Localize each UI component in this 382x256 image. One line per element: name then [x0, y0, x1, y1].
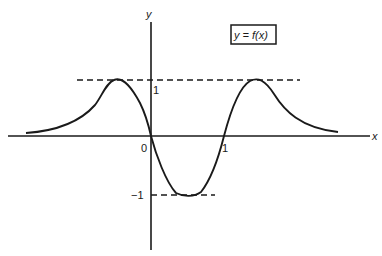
x-axis-label: x [371, 130, 378, 142]
x-tick-1: 1 [222, 142, 228, 154]
function-graph: 1 0 1 −1 y x y = f(x) [0, 0, 382, 256]
legend-label: y = f(x) [233, 29, 268, 41]
y-tick-minus-1: −1 [131, 189, 144, 201]
function-curve [26, 79, 338, 196]
origin-label: 0 [141, 142, 147, 154]
y-axis-label: y [145, 8, 153, 20]
y-tick-1: 1 [153, 84, 159, 96]
